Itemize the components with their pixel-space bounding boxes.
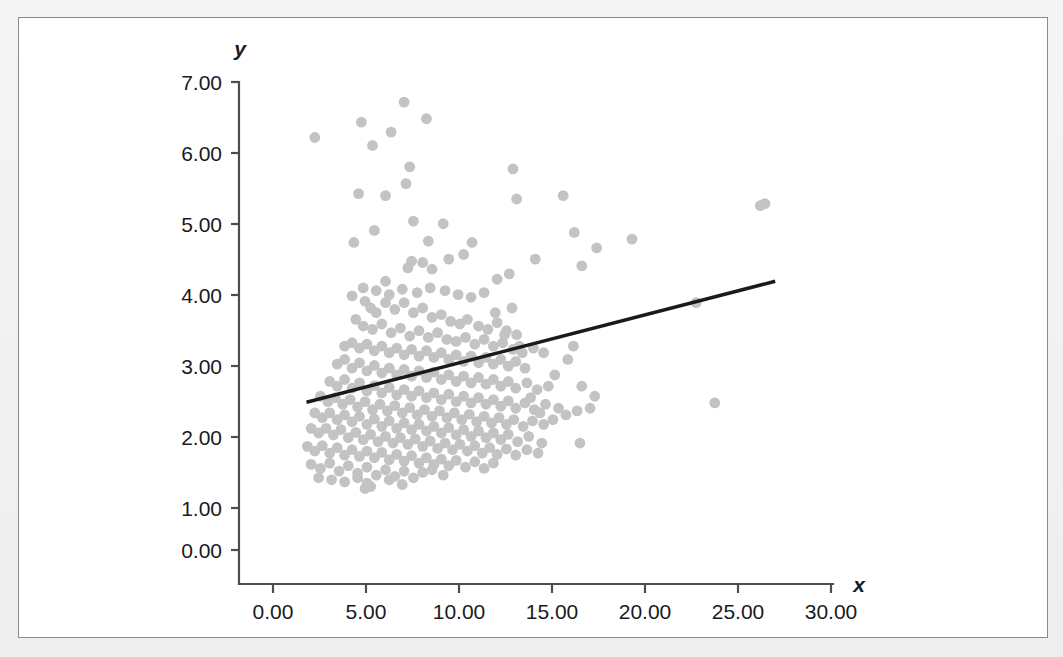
y-tick-label: 6.00: [181, 142, 222, 165]
data-point: [562, 354, 573, 365]
data-point: [408, 307, 419, 318]
data-point: [469, 339, 480, 350]
data-point: [404, 162, 415, 173]
data-point: [508, 164, 519, 175]
data-point: [386, 127, 397, 138]
data-point: [423, 236, 434, 247]
data-point: [399, 97, 410, 108]
data-point: [490, 307, 501, 318]
data-point: [397, 479, 408, 490]
data-point: [548, 414, 559, 425]
trend-line-group: [306, 281, 775, 402]
data-point: [443, 254, 454, 265]
data-point: [521, 444, 532, 455]
data-point: [395, 323, 406, 334]
data-point: [352, 472, 363, 483]
x-tick-label: 20.00: [619, 600, 672, 623]
data-point: [533, 448, 544, 459]
data-point: [510, 403, 521, 414]
data-point: [479, 334, 490, 345]
data-point: [488, 341, 499, 352]
data-point: [451, 336, 462, 347]
scatter-plot: 7.00 6.00 5.00 4.00 3.00 2.00 1.00 0.00: [19, 18, 1046, 636]
data-point: [369, 225, 380, 236]
y-axis-title: y: [233, 37, 247, 60]
data-point: [367, 140, 378, 151]
data-point: [423, 332, 434, 343]
data-point: [518, 421, 529, 432]
data-point: [536, 438, 547, 449]
data-point: [479, 463, 490, 474]
data-point: [709, 398, 720, 409]
y-tick-label: 4.00: [181, 284, 222, 307]
data-point: [538, 347, 549, 358]
y-tick-label: 2.00: [181, 426, 222, 449]
data-point: [453, 289, 464, 300]
data-point: [417, 303, 428, 314]
y-tick-label: 5.00: [181, 213, 222, 236]
data-point: [414, 325, 425, 336]
data-point: [527, 416, 538, 427]
data-point: [404, 331, 415, 342]
data-point: [376, 319, 387, 330]
data-point: [585, 403, 596, 414]
data-point: [576, 381, 587, 392]
data-point: [362, 462, 373, 473]
data-point: [339, 374, 350, 385]
data-point: [402, 262, 413, 273]
data-point: [313, 472, 324, 483]
data-point: [499, 329, 510, 340]
data-point: [561, 410, 572, 421]
data-point: [507, 303, 518, 314]
data-point: [334, 466, 345, 477]
data-point: [535, 408, 546, 419]
data-point: [408, 472, 419, 483]
data-point: [458, 249, 469, 260]
data-point: [538, 419, 549, 430]
data-point: [354, 357, 365, 368]
data-point: [347, 291, 358, 302]
data-point: [525, 392, 536, 403]
data-point: [504, 268, 515, 279]
x-tick-label: 25.00: [712, 600, 765, 623]
data-point: [401, 178, 412, 189]
scatter-points: [302, 97, 770, 494]
data-point: [371, 285, 382, 296]
data-point: [523, 431, 534, 442]
data-point: [315, 463, 326, 474]
x-axis-ticks: [273, 584, 831, 593]
data-point: [399, 466, 410, 477]
data-point: [488, 458, 499, 469]
data-point: [492, 274, 503, 285]
data-point: [589, 391, 600, 402]
data-point: [492, 317, 503, 328]
data-point: [510, 383, 521, 394]
y-axis-ticks: [231, 82, 239, 550]
data-point: [508, 414, 519, 425]
data-point: [460, 462, 471, 473]
data-point: [389, 304, 400, 315]
y-axis-tick-labels: 7.00 6.00 5.00 4.00 3.00 2.00 1.00 0.00: [181, 71, 222, 562]
y-tick-label: 1.00: [181, 497, 222, 520]
data-point: [356, 117, 367, 128]
data-point: [575, 438, 586, 449]
data-point: [520, 363, 531, 374]
data-point: [343, 460, 354, 471]
data-point: [473, 321, 484, 332]
data-point: [572, 406, 583, 417]
data-point: [354, 411, 365, 422]
data-point: [510, 450, 521, 461]
x-axis-tick-labels: 0.00 5.00 10.00 15.00 20.00 25.00 30.00: [253, 600, 858, 623]
data-point: [380, 190, 391, 201]
data-point: [521, 377, 532, 388]
data-point: [306, 459, 317, 470]
scanned-page: 7.00 6.00 5.00 4.00 3.00 2.00 1.00 0.00: [0, 0, 1063, 657]
data-point: [558, 190, 569, 201]
data-point: [436, 309, 447, 320]
data-point: [467, 237, 478, 248]
data-point: [438, 470, 449, 481]
data-point: [386, 327, 397, 338]
data-point: [576, 260, 587, 271]
data-point: [569, 227, 580, 238]
data-point: [510, 356, 521, 367]
